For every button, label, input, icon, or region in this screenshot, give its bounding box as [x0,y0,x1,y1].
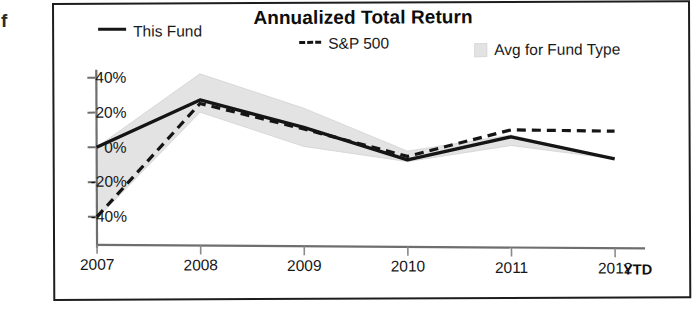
x-axis-tick-label: 2007 [62,256,132,274]
x-axis-tick-label: 2008 [166,256,236,274]
scan-artifact-glyph: f [1,11,7,31]
x-axis-tick-label: 2009 [269,257,339,275]
x-axis-tick-label: 2010 [373,258,443,276]
plot-area: 40%20%0%-20%-40% 20072008200920102011201… [54,2,689,299]
x-axis-ticks: 200720082009201020112012YTD [54,2,689,299]
chart-frame: Annualized Total Return This Fund S&P 50… [52,0,691,301]
x-axis-tick-label: 2011 [477,258,547,276]
x-axis-ytd-label: YTD [623,261,652,277]
